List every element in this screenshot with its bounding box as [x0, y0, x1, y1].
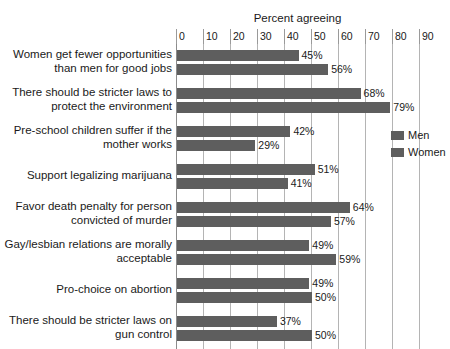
bar-value-label: 51% — [315, 163, 339, 176]
category-label-line: Pre-school children suffer if the — [0, 124, 172, 138]
category-label: Women get fewer opportunitiesthan men fo… — [0, 48, 172, 75]
category-label-line: gun control — [0, 328, 172, 342]
bar-value-label: 50% — [312, 291, 336, 304]
x-axis-tick-label: 20 — [230, 29, 245, 44]
bar-value-label: 56% — [328, 63, 352, 76]
bar-value-label: 41% — [288, 177, 312, 190]
category-label-line: than men for good jobs — [0, 62, 172, 76]
legend-label: Men — [408, 129, 429, 142]
bar-row[interactable]: 50% — [177, 330, 420, 341]
category-label-line: There should be stricter laws to — [0, 86, 172, 100]
bar-group: 64%57% — [177, 202, 420, 227]
bar-men[interactable] — [177, 50, 299, 61]
bar-group: 45%56% — [177, 50, 420, 75]
category-label: Favor death penalty for personconvicted … — [0, 200, 172, 227]
bar-value-label: 29% — [255, 139, 279, 152]
category-label-line: mother works — [0, 138, 172, 152]
legend-entry-women[interactable]: Women — [391, 145, 450, 160]
x-axis-tick-label: 0 — [176, 29, 185, 44]
bar-women[interactable] — [177, 64, 328, 75]
bar-row[interactable]: 57% — [177, 216, 420, 227]
legend-swatch — [391, 131, 404, 140]
bar-women[interactable] — [177, 102, 390, 113]
bar-group: 37%50% — [177, 316, 420, 341]
bar-value-label: 79% — [390, 101, 414, 114]
chart-title: Percent agreeing — [176, 11, 419, 25]
x-axis-tick-label: 40 — [284, 29, 299, 44]
bar-value-label: 50% — [312, 329, 336, 342]
bar-value-label: 59% — [336, 253, 360, 266]
category-label-line: Women get fewer opportunities — [0, 48, 172, 62]
bar-row[interactable]: 51% — [177, 164, 420, 175]
category-label-line: Pro-choice on abortion — [0, 283, 172, 297]
x-axis-tick-labels: 0102030405060708090 — [176, 29, 419, 44]
bar-group: 49%50% — [177, 278, 420, 303]
category-label-line: protect the environment — [0, 100, 172, 114]
legend-label: Women — [408, 146, 446, 159]
bar-chart: Percent agreeing 0102030405060708090 45%… — [0, 0, 450, 349]
category-label: There should be stricter laws toprotect … — [0, 86, 172, 113]
bar-group: 49%59% — [177, 240, 420, 265]
bar-men[interactable] — [177, 278, 309, 289]
x-axis-tick-label: 50 — [311, 29, 326, 44]
bar-row[interactable]: 49% — [177, 240, 420, 251]
bar-men[interactable] — [177, 164, 315, 175]
bar-row[interactable]: 29% — [177, 140, 420, 151]
bar-value-label: 64% — [350, 201, 374, 214]
x-axis-tick-label: 70 — [365, 29, 380, 44]
category-label-line: acceptable — [0, 252, 172, 266]
bar-row[interactable]: 79% — [177, 102, 420, 113]
bar-group: 51%41% — [177, 164, 420, 189]
category-label: There should be stricter laws ongun cont… — [0, 314, 172, 341]
category-label-line: Favor death penalty for person — [0, 200, 172, 214]
bar-value-label: 49% — [309, 239, 333, 252]
bar-men[interactable] — [177, 88, 361, 99]
bar-women[interactable] — [177, 216, 331, 227]
category-label-line: Gay/lesbian relations are morally — [0, 238, 172, 252]
bar-row[interactable]: 50% — [177, 292, 420, 303]
category-label: Support legalizing marijuana — [0, 169, 172, 183]
bar-men[interactable] — [177, 202, 350, 213]
category-label: Pre-school children suffer if themother … — [0, 124, 172, 151]
bar-group: 68%79% — [177, 88, 420, 113]
category-label-line: convicted of murder — [0, 214, 172, 228]
plot-area: 45%56%68%79%42%29%51%41%64%57%49%59%49%5… — [176, 44, 419, 349]
bar-women[interactable] — [177, 178, 288, 189]
bar-men[interactable] — [177, 126, 290, 137]
bar-value-label: 37% — [277, 315, 301, 328]
x-axis-tick-label: 90 — [419, 29, 434, 44]
chart-legend: MenWomen — [391, 128, 450, 162]
x-axis-tick-label: 80 — [392, 29, 407, 44]
bar-women[interactable] — [177, 292, 312, 303]
x-axis-tick-label: 10 — [203, 29, 218, 44]
category-label-column: Women get fewer opportunitiesthan men fo… — [0, 44, 172, 349]
bar-row[interactable]: 37% — [177, 316, 420, 327]
category-label: Pro-choice on abortion — [0, 283, 172, 297]
bar-women[interactable] — [177, 330, 312, 341]
bar-women[interactable] — [177, 254, 336, 265]
bar-men[interactable] — [177, 316, 277, 327]
bar-row[interactable]: 41% — [177, 178, 420, 189]
bar-row[interactable]: 59% — [177, 254, 420, 265]
bar-men[interactable] — [177, 240, 309, 251]
legend-swatch — [391, 148, 404, 157]
bar-row[interactable]: 42% — [177, 126, 420, 137]
category-label-line: Support legalizing marijuana — [0, 169, 172, 183]
category-label: Gay/lesbian relations are morallyaccepta… — [0, 238, 172, 265]
x-axis-tick-label: 60 — [338, 29, 353, 44]
bar-value-label: 42% — [290, 125, 314, 138]
bar-group: 42%29% — [177, 126, 420, 151]
x-axis-tick-label: 30 — [257, 29, 272, 44]
category-label-line: There should be stricter laws on — [0, 314, 172, 328]
bar-row[interactable]: 56% — [177, 64, 420, 75]
bar-value-label: 45% — [299, 49, 323, 62]
bar-row[interactable]: 45% — [177, 50, 420, 61]
bar-value-label: 68% — [361, 87, 385, 100]
bar-value-label: 49% — [309, 277, 333, 290]
bar-row[interactable]: 49% — [177, 278, 420, 289]
bar-row[interactable]: 68% — [177, 88, 420, 99]
bar-row[interactable]: 64% — [177, 202, 420, 213]
bar-women[interactable] — [177, 140, 255, 151]
bar-value-label: 57% — [331, 215, 355, 228]
legend-entry-men[interactable]: Men — [391, 128, 450, 143]
